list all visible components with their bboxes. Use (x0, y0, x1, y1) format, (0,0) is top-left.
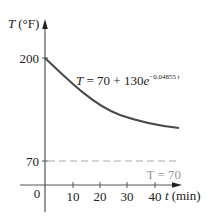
asymptote-label: T = 70 (146, 167, 181, 182)
x-axis-unit: (min) (172, 188, 201, 203)
x-tick-label-40: 40 (149, 189, 162, 204)
x-tick-label-30: 30 (121, 189, 134, 204)
y-tick-label-70: 70 (26, 154, 39, 169)
y-axis-var: T (8, 16, 16, 31)
origin-label: 0 (34, 186, 41, 201)
x-axis-arrow-icon (172, 182, 182, 188)
y-axis-arrow-icon (42, 19, 48, 29)
cooling-curve (45, 58, 179, 128)
y-axis-label: T(°F) (8, 16, 39, 31)
cooling-curve-chart: 10 20 30 40 200 70 0 T(°F) t(min) T = 70… (0, 0, 214, 218)
equation-exponent: −0.04855 t (149, 73, 179, 81)
x-axis-label: t(min) (165, 188, 201, 203)
x-tick-label-20: 20 (94, 189, 107, 204)
equation-label: T = 70 + 130e−0.04855 t (76, 73, 180, 88)
y-tick-label-200: 200 (20, 51, 40, 66)
y-axis-unit: (°F) (18, 16, 39, 31)
x-tick-label-10: 10 (67, 189, 80, 204)
x-axis-var: t (165, 188, 169, 203)
